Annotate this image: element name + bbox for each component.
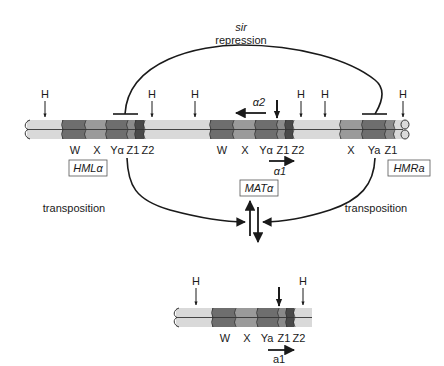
svg-text:H: H	[299, 275, 307, 287]
svg-text:α2: α2	[253, 96, 265, 108]
svg-text:Ya: Ya	[368, 144, 382, 156]
hmr-segment-labels: X Ya Z1	[347, 144, 397, 156]
h-site-1: H	[41, 88, 49, 117]
hml-segment-labels: W X Yα Z1 Z2	[70, 144, 155, 156]
svg-text:a1: a1	[273, 353, 285, 365]
mating-type-diagram: sir repression	[0, 0, 444, 366]
svg-text:HMRa: HMRa	[393, 162, 424, 174]
svg-text:W: W	[220, 332, 231, 344]
svg-text:X: X	[347, 144, 355, 156]
svg-text:H: H	[192, 275, 200, 287]
svg-text:MATα: MATα	[245, 182, 274, 194]
svg-text:Z1: Z1	[277, 144, 290, 156]
svg-text:α1: α1	[274, 165, 286, 177]
bottom-chromosome	[174, 308, 312, 327]
svg-text:Z1: Z1	[127, 144, 140, 156]
h-sites-bottom: H H	[192, 275, 307, 306]
sir-label: sir	[235, 21, 248, 33]
svg-text:transposition: transposition	[345, 202, 407, 214]
svg-text:H: H	[297, 88, 305, 100]
h-site-2: H	[148, 88, 156, 117]
svg-text:H: H	[148, 88, 156, 100]
svg-text:Yα: Yα	[259, 144, 273, 156]
switch-arrows	[250, 201, 258, 242]
svg-text:Z2: Z2	[142, 144, 155, 156]
svg-text:Z1: Z1	[278, 332, 291, 344]
svg-text:transposition: transposition	[43, 202, 105, 214]
h-site-5: H	[321, 88, 329, 117]
h-site-4: H	[297, 88, 305, 117]
svg-text:H: H	[399, 88, 407, 100]
svg-text:HMLα: HMLα	[73, 162, 103, 174]
svg-text:X: X	[243, 332, 251, 344]
h-site-bottom-1: H	[192, 275, 200, 305]
svg-text:W: W	[217, 144, 228, 156]
h-sites-top: H H H H H H	[41, 88, 407, 118]
mat-alpha-segment-labels: W X Yα Z1 Z2	[217, 144, 305, 156]
svg-text:H: H	[321, 88, 329, 100]
alpha2-transcript: α2	[236, 96, 266, 113]
mat-alpha-label-box: MATα	[240, 180, 278, 196]
hmr-a-label-box: HMRa	[388, 160, 430, 176]
alpha1-transcript: α1	[269, 161, 294, 177]
h-site-bottom-2: H	[299, 275, 307, 305]
svg-text:Z1: Z1	[385, 144, 398, 156]
h-site-3: H	[191, 88, 199, 117]
svg-text:X: X	[241, 144, 249, 156]
sir-repression-arc: sir repression	[113, 21, 387, 114]
repression-label: repression	[215, 34, 266, 46]
hml-alpha-label-box: HMLα	[69, 160, 107, 176]
svg-text:X: X	[93, 144, 101, 156]
top-chromosome	[25, 120, 409, 139]
svg-text:H: H	[191, 88, 199, 100]
svg-text:Ya: Ya	[261, 332, 275, 344]
svg-text:Yα: Yα	[110, 144, 124, 156]
svg-text:H: H	[41, 88, 49, 100]
h-site-6: H	[399, 88, 407, 117]
svg-text:Z2: Z2	[293, 332, 306, 344]
a1-transcript: a1	[268, 350, 294, 365]
svg-text:W: W	[70, 144, 81, 156]
svg-text:Z2: Z2	[292, 144, 305, 156]
mat-a-segment-labels: W X Ya Z1 Z2	[220, 332, 306, 344]
